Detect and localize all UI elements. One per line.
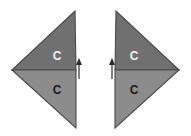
right-upper-triangle-label: C <box>130 49 139 63</box>
geometry-figure: C C C C <box>0 0 191 136</box>
figure-canvas: C C C C <box>0 0 191 136</box>
left-lower-triangle-label: C <box>53 83 62 97</box>
left-upper-triangle-label: C <box>53 49 62 63</box>
right-lower-triangle-label: C <box>130 83 139 97</box>
